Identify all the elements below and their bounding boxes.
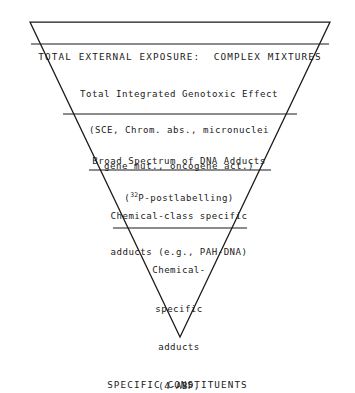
tier-1-line-1: TOTAL EXTERNAL EXPOSURE: COMPLEX MIXTURE… [36,51,324,63]
tier-3-line-1: Broad Spectrum of DNA Adducts [72,155,286,167]
figure-caption: SPECIFIC CONSTITUENTS OF COMPLEX MIXTURE [40,352,315,393]
tier-4-line-1: Chemical-class specific [92,210,266,222]
tier-5-line-2: specific [122,303,236,316]
exposure-hierarchy-figure: TOTAL EXTERNAL EXPOSURE: COMPLEX MIXTURE… [0,0,355,393]
tier-5-line-1: Chemical- [122,264,236,277]
caption-line-1: SPECIFIC CONSTITUENTS [40,378,315,391]
tier-2-line-1: Total Integrated Genotoxic Effect [50,88,308,100]
